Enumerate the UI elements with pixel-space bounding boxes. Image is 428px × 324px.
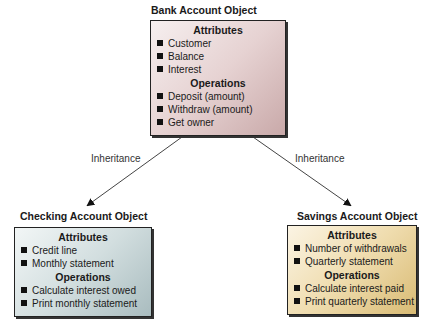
checking-account-title: Checking Account Object	[20, 210, 147, 222]
savings-operation: Print quarterly statement	[294, 295, 410, 308]
savings-account-title: Savings Account Object	[297, 210, 417, 222]
bank-attribute: Customer	[157, 37, 279, 50]
bank-attributes-header: Attributes	[157, 23, 279, 37]
left-inheritance-label: Inheritance	[91, 153, 140, 164]
bank-account-box: Attributes Customer Balance Interest Ope…	[150, 20, 286, 136]
bank-operation: Get owner	[157, 116, 279, 129]
checking-attributes-header: Attributes	[21, 230, 145, 244]
bank-attribute: Balance	[157, 50, 279, 63]
checking-operations-header: Operations	[21, 270, 145, 284]
bank-attribute: Interest	[157, 63, 279, 76]
checking-attribute: Credit line	[21, 244, 145, 257]
checking-operation: Print monthly statement	[21, 297, 145, 310]
bank-operations-header: Operations	[157, 76, 279, 90]
savings-operation: Calculate interest paid	[294, 282, 410, 295]
bank-account-title: Bank Account Object	[151, 4, 257, 16]
savings-attribute: Quarterly statement	[294, 255, 410, 268]
checking-operation: Calculate interest owed	[21, 284, 145, 297]
checking-attribute: Monthly statement	[21, 257, 145, 270]
bank-operation: Deposit (amount)	[157, 90, 279, 103]
bank-operation: Withdraw (amount)	[157, 103, 279, 116]
savings-attribute: Number of withdrawals	[294, 242, 410, 255]
savings-operations-header: Operations	[294, 268, 410, 282]
right-inheritance-label: Inheritance	[295, 153, 344, 164]
left-inheritance-arrow	[88, 137, 182, 205]
savings-account-box: Attributes Number of withdrawals Quarter…	[287, 225, 417, 315]
checking-account-box: Attributes Credit line Monthly statement…	[14, 227, 152, 317]
right-inheritance-arrow	[253, 137, 350, 205]
savings-attributes-header: Attributes	[294, 228, 410, 242]
